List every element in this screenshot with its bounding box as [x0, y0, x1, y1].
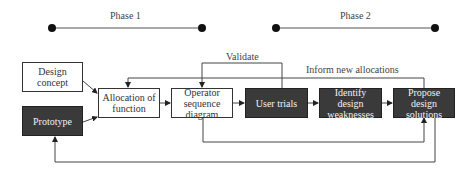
node-allocation-of-function: Allocation of function: [98, 88, 160, 118]
phase-2-start-dot: [272, 24, 280, 32]
edge-validate-loop: [202, 63, 282, 88]
node-identify-design-weaknesses: Identify design weaknesses: [319, 88, 382, 118]
phase-1-label: Phase 1: [110, 10, 141, 21]
phase-2-end-dot: [431, 24, 439, 32]
node-user-trials: User trials: [245, 88, 308, 118]
edge-prototype-to-allocation: [83, 117, 97, 122]
phase-1-start-dot: [48, 24, 56, 32]
phase-2-label: Phase 2: [340, 10, 371, 21]
node-operator-sequence-diagram: Operator sequence diagram: [171, 88, 233, 118]
node-design-concept: Design concept: [22, 62, 83, 92]
node-propose-design-solutions: Propose design solutions: [393, 88, 455, 118]
edge-operator-to-propose: [203, 117, 424, 142]
edge-propose-to-prototype: [55, 117, 435, 162]
inform-new-allocations-label: Inform new allocations: [306, 64, 399, 75]
node-prototype: Prototype: [22, 106, 83, 136]
edge-design-to-allocation: [83, 81, 97, 93]
phase-1-timeline: [48, 24, 206, 32]
validate-label: Validate: [226, 51, 259, 62]
phase-2-timeline: [272, 24, 439, 32]
phase-1-end-dot: [198, 24, 206, 32]
